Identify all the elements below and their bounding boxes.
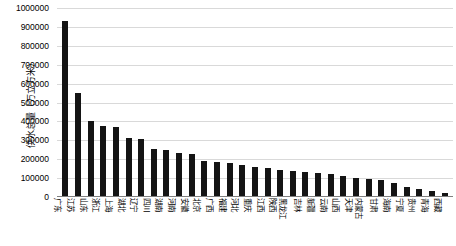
x-axis-line	[57, 196, 453, 197]
bar[interactable]	[75, 93, 81, 197]
bar[interactable]	[100, 126, 106, 197]
bars-container	[57, 8, 453, 197]
x-axis-tick-label: 甘肃	[369, 198, 378, 212]
x-axis-tick-label: 河南	[167, 198, 176, 212]
bar-slot	[160, 8, 173, 197]
bar-slot	[236, 8, 249, 197]
x-axis-tick-label: 山西	[331, 198, 340, 212]
x-axis-tick-label: 青海	[420, 198, 429, 212]
x-axis-tick-label: 安徽	[180, 198, 189, 212]
x-axis-tick-label: 广东	[53, 198, 62, 212]
bar-slot	[223, 8, 236, 197]
bar-slot	[173, 8, 186, 197]
bar[interactable]	[340, 176, 346, 197]
x-axis-tick-labels: 广东江苏山东浙江上海湖北辽宁四川湖南河南安徽北京广西福建河北重庆江西陕西黑龙江吉…	[57, 198, 453, 246]
bar[interactable]	[176, 153, 182, 197]
bar[interactable]	[239, 165, 245, 197]
bar-slot	[337, 8, 350, 197]
bar[interactable]	[201, 161, 207, 197]
y-axis-tick-label: 700000	[21, 61, 49, 69]
y-axis-tick-label: 600000	[21, 80, 49, 88]
y-axis-tick-label: 900000	[21, 23, 49, 31]
bar-slot	[375, 8, 388, 197]
y-axis-tick-label: 500000	[21, 99, 49, 107]
x-axis-tick-label: 山东	[79, 198, 88, 212]
x-axis-tick-label: 北京	[192, 198, 201, 212]
x-axis-tick-label: 天津	[344, 198, 353, 212]
x-axis-tick-label: 湖北	[117, 198, 126, 212]
bar-slot	[198, 8, 211, 197]
y-axis-tick-label: 300000	[21, 136, 49, 144]
bar[interactable]	[391, 183, 397, 197]
bar-slot	[350, 8, 363, 197]
bar-slot	[211, 8, 224, 197]
bar[interactable]	[126, 138, 132, 197]
bar[interactable]	[88, 121, 94, 197]
x-axis-tick-label: 重庆	[243, 198, 252, 212]
x-axis-tick-label: 贵州	[407, 198, 416, 212]
x-axis-tick-label: 西藏	[433, 198, 442, 212]
y-axis-tick-label: 200000	[21, 155, 49, 163]
x-axis-tick-label: 吉林	[293, 198, 302, 212]
bar[interactable]	[214, 162, 220, 197]
x-axis-tick-label: 云南	[319, 198, 328, 212]
bar-slot	[388, 8, 401, 197]
bar[interactable]	[315, 173, 321, 197]
bar-slot	[84, 8, 97, 197]
bar-chart: 供水总量（万立方米） 01000002000003000004000005000…	[0, 0, 456, 246]
x-axis-tick-label: 辽宁	[129, 198, 138, 212]
bar-slot	[438, 8, 451, 197]
x-axis-tick-label: 湖南	[154, 198, 163, 212]
x-axis-tick-label: 广西	[205, 198, 214, 212]
bar[interactable]	[302, 172, 308, 198]
x-axis-tick-label: 新疆	[306, 198, 315, 212]
x-axis-tick-label: 四川	[142, 198, 151, 212]
bar-slot	[324, 8, 337, 197]
bar[interactable]	[290, 171, 296, 197]
bar[interactable]	[151, 149, 157, 197]
y-axis-tick-label: 100000	[21, 174, 49, 182]
bar-slot	[261, 8, 274, 197]
bar[interactable]	[328, 174, 334, 197]
plot-area	[57, 8, 453, 197]
bar[interactable]	[366, 179, 372, 197]
bar[interactable]	[113, 127, 119, 197]
x-axis-tick-label: 河北	[230, 198, 239, 212]
bar[interactable]	[378, 180, 384, 197]
bar-slot	[147, 8, 160, 197]
x-axis-tick-label: 江西	[256, 198, 265, 212]
x-axis-tick-label: 内蒙古	[353, 198, 362, 219]
bar-slot	[185, 8, 198, 197]
bar-slot	[249, 8, 262, 197]
x-axis-tick-label: 陕西	[268, 198, 277, 212]
bar-slot	[72, 8, 85, 197]
bar[interactable]	[163, 150, 169, 197]
bar[interactable]	[227, 163, 233, 197]
bar-slot	[110, 8, 123, 197]
bar[interactable]	[252, 167, 258, 197]
bar[interactable]	[138, 139, 144, 197]
bar-slot	[413, 8, 426, 197]
bar-slot	[135, 8, 148, 197]
bar[interactable]	[353, 178, 359, 197]
x-axis-tick-label: 黑龙江	[277, 198, 286, 219]
bar-slot	[287, 8, 300, 197]
y-axis-tick-labels: 0100000200000300000400000500000600000700…	[0, 8, 52, 197]
bar[interactable]	[265, 168, 271, 197]
y-axis-tick-label: 800000	[21, 42, 49, 50]
bar[interactable]	[62, 21, 68, 197]
x-label-slot: 西藏	[438, 198, 451, 246]
bar-slot	[274, 8, 287, 197]
x-axis-tick-label: 江苏	[66, 198, 75, 212]
x-axis-tick-label: 宁夏	[395, 198, 404, 212]
bar[interactable]	[189, 154, 195, 197]
bar[interactable]	[277, 170, 283, 197]
bar-slot	[299, 8, 312, 197]
y-axis-tick-label: 1000000	[16, 4, 49, 12]
bar-slot	[122, 8, 135, 197]
x-axis-tick-label: 海南	[382, 198, 391, 212]
x-axis-tick-label: 福建	[218, 198, 227, 212]
bar-slot	[400, 8, 413, 197]
y-axis-tick-label: 400000	[21, 117, 49, 125]
y-axis-tick-label: 0	[44, 193, 49, 201]
